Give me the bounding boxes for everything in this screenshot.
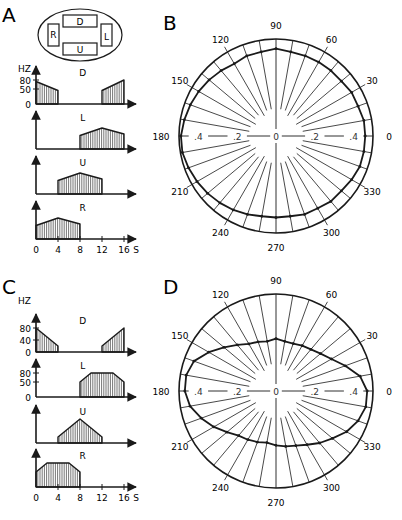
timing-trace-r: R <box>36 201 136 239</box>
svg-text:S: S <box>133 493 139 503</box>
svg-text:12: 12 <box>96 493 107 503</box>
svg-text:50: 50 <box>20 378 32 388</box>
polar-radial-axis: .4.20.2.4 <box>179 132 373 142</box>
svg-text:80: 80 <box>20 324 32 334</box>
svg-text:90: 90 <box>270 276 282 286</box>
timing-trace-u: U <box>36 156 136 194</box>
electrode-label-d: D <box>77 17 84 27</box>
svg-text:150: 150 <box>171 331 188 341</box>
svg-text:0: 0 <box>25 393 31 403</box>
svg-text:300: 300 <box>323 483 340 493</box>
hz-axis-label: HZ <box>18 296 31 306</box>
svg-text:12: 12 <box>96 245 107 255</box>
timing-trace-d: D05080 <box>20 66 136 110</box>
svg-text:60: 60 <box>326 35 338 45</box>
svg-text:0: 0 <box>386 132 392 142</box>
svg-text:210: 210 <box>171 187 188 197</box>
svg-text:80: 80 <box>20 369 32 379</box>
figure: A B C D D R L U HZD05080LUR0481216S HZD0… <box>0 0 402 520</box>
svg-text:.4: .4 <box>349 387 358 397</box>
electrode-label-r: R <box>50 30 56 40</box>
svg-text:.2: .2 <box>233 387 242 397</box>
svg-text:0: 0 <box>33 493 39 503</box>
svg-text:120: 120 <box>212 35 229 45</box>
timing-trace-l: L <box>36 111 136 149</box>
panel-label-d: D <box>163 275 178 299</box>
svg-text:.4: .4 <box>349 132 358 142</box>
svg-text:120: 120 <box>212 290 229 300</box>
timing-chart-a: HZD05080LUR0481216S <box>18 64 139 255</box>
svg-text:8: 8 <box>77 493 83 503</box>
svg-text:4: 4 <box>55 493 61 503</box>
svg-text:8: 8 <box>77 245 83 255</box>
svg-text:30: 30 <box>366 331 378 341</box>
svg-text:D: D <box>79 316 86 326</box>
timing-chart-c: HZD04080L05080UR0481216S <box>18 296 139 503</box>
svg-text:210: 210 <box>171 442 188 452</box>
panel-label-a: A <box>2 3 16 27</box>
svg-text:50: 50 <box>20 85 32 95</box>
svg-text:0: 0 <box>273 387 279 397</box>
svg-text:270: 270 <box>267 243 284 253</box>
svg-text:40: 40 <box>20 336 32 346</box>
svg-text:R: R <box>80 451 86 461</box>
svg-text:16: 16 <box>118 245 130 255</box>
svg-text:.4: .4 <box>194 387 203 397</box>
electrode-diagram: D R L U <box>38 9 122 61</box>
svg-text:270: 270 <box>267 498 284 508</box>
svg-text:180: 180 <box>152 132 169 142</box>
panel-label-b: B <box>163 11 177 35</box>
svg-text:330: 330 <box>364 187 381 197</box>
svg-text:240: 240 <box>212 483 229 493</box>
svg-text:.2: .2 <box>311 132 320 142</box>
svg-text:.4: .4 <box>194 132 203 142</box>
panel-label-c: C <box>2 275 16 299</box>
svg-text:0: 0 <box>25 348 31 358</box>
svg-text:.2: .2 <box>233 132 242 142</box>
timing-trace-l: L05080 <box>20 359 136 403</box>
polar-radial-axis: .4.20.2.4 <box>179 387 373 397</box>
svg-text:30: 30 <box>366 76 378 86</box>
timing-trace-d: D04080 <box>20 314 136 358</box>
svg-text:16: 16 <box>118 493 130 503</box>
svg-text:240: 240 <box>212 228 229 238</box>
svg-text:L: L <box>80 113 85 123</box>
svg-text:.2: .2 <box>311 387 320 397</box>
timing-trace-r: R <box>36 449 136 487</box>
polar-chart-d: .4.20.2.40306090120150180210240270300330 <box>152 276 392 508</box>
svg-text:90: 90 <box>270 21 282 31</box>
electrode-label-l: L <box>104 32 109 42</box>
svg-text:4: 4 <box>55 245 61 255</box>
figure-caption-truncated: ▁▁▁▁▁ ▁▁▁▁▁ ▁▁▁ ▁▁▁▁ ▁▁▁▁▁▁▁ ▁▁▁▁▁▁▁▁ ▁▁… <box>14 513 394 520</box>
svg-text:D: D <box>79 68 86 78</box>
svg-text:80: 80 <box>20 76 32 86</box>
svg-text:S: S <box>133 245 139 255</box>
svg-text:150: 150 <box>171 76 188 86</box>
svg-text:60: 60 <box>326 290 338 300</box>
timing-trace-u: U <box>36 405 136 443</box>
polar-chart-b: .4.20.2.40306090120150180210240270300330 <box>152 21 392 253</box>
svg-text:0: 0 <box>273 132 279 142</box>
electrode-label-u: U <box>77 45 84 55</box>
hz-axis-label: HZ <box>18 64 31 74</box>
svg-text:L: L <box>80 361 85 371</box>
svg-text:0: 0 <box>25 100 31 110</box>
svg-text:0: 0 <box>33 245 39 255</box>
svg-text:180: 180 <box>152 387 169 397</box>
svg-text:0: 0 <box>386 387 392 397</box>
svg-text:300: 300 <box>323 228 340 238</box>
svg-text:R: R <box>80 203 86 213</box>
svg-text:U: U <box>79 158 86 168</box>
svg-text:U: U <box>79 407 86 417</box>
svg-text:330: 330 <box>364 442 381 452</box>
